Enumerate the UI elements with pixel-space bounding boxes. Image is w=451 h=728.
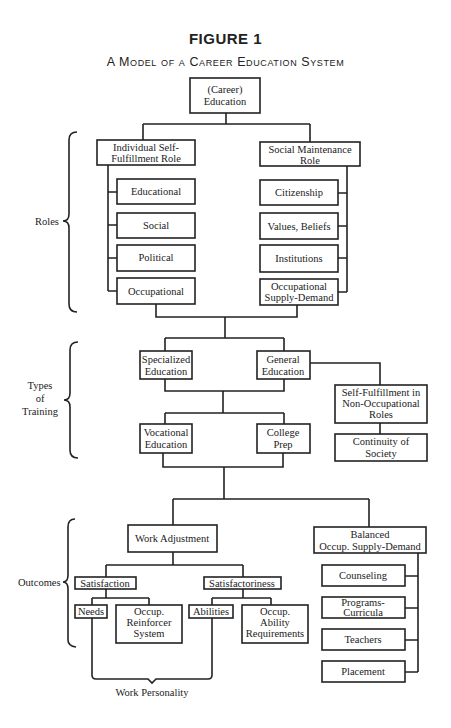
svg-text:Satisfactoriness: Satisfactoriness: [209, 578, 275, 589]
svg-text:Ability: Ability: [260, 617, 291, 628]
section-label-training-3: Training: [22, 406, 59, 417]
svg-text:Occup.: Occup.: [260, 606, 290, 617]
svg-text:Occupational: Occupational: [271, 281, 327, 292]
node-occupational-supply-demand: Occupational Supply-Demand: [260, 279, 338, 305]
svg-text:Education: Education: [145, 439, 188, 450]
node-citizenship: Citizenship: [260, 180, 338, 205]
svg-text:Education: Education: [145, 366, 188, 377]
svg-text:Values, Beliefs: Values, Beliefs: [268, 221, 331, 232]
node-general-education: General Education: [257, 351, 310, 379]
svg-text:Education: Education: [262, 366, 305, 377]
svg-text:Citizenship: Citizenship: [275, 187, 323, 198]
svg-text:Political: Political: [139, 252, 174, 263]
node-values-beliefs: Values, Beliefs: [260, 213, 338, 239]
svg-text:Education: Education: [204, 96, 247, 107]
node-placement: Placement: [322, 661, 405, 682]
svg-text:Vocational: Vocational: [144, 427, 189, 438]
svg-text:Social: Social: [143, 220, 169, 231]
svg-text:Abilities: Abilities: [193, 606, 229, 617]
svg-text:Continuity of: Continuity of: [353, 436, 410, 447]
svg-text:Satisfaction: Satisfaction: [80, 578, 130, 589]
node-occup-ability-requirements: Occup. Ability Requirements: [242, 605, 308, 643]
node-educational: Educational: [117, 179, 195, 204]
svg-text:Fulfillment Role: Fulfillment Role: [111, 153, 181, 164]
svg-text:Roles: Roles: [369, 409, 393, 420]
section-label-training-2: of: [36, 393, 45, 404]
training-brace: [64, 342, 78, 458]
node-teachers: Teachers: [322, 629, 405, 650]
svg-text:Curricula: Curricula: [343, 607, 383, 618]
node-occup-reinforcer-system: Occup. Reinforcer System: [116, 605, 182, 643]
node-political: Political: [117, 245, 195, 271]
node-specialized-education: Specialized Education: [140, 351, 192, 379]
node-individual-self-fulfillment-role: Individual Self- Fulfillment Role: [97, 140, 195, 165]
svg-text:Occup. Supply-Demand: Occup. Supply-Demand: [319, 541, 421, 552]
svg-text:Society: Society: [365, 448, 397, 459]
roles-brace: [63, 132, 77, 312]
node-career-education: (Career) Education: [190, 78, 260, 113]
node-social: Social: [117, 213, 195, 238]
svg-text:Non-Occupational: Non-Occupational: [342, 398, 420, 409]
node-continuity-of-society: Continuity of Society: [335, 434, 427, 461]
node-needs: Needs: [75, 605, 107, 618]
node-work-adjustment: Work Adjustment: [128, 525, 217, 552]
section-label-outcomes: Outcomes: [18, 577, 61, 588]
svg-text:Occupational: Occupational: [128, 286, 184, 297]
svg-text:Supply-Demand: Supply-Demand: [265, 292, 335, 303]
node-social-maintenance-role: Social Maintenance Role: [260, 142, 360, 166]
career-education-diagram: Roles Types of Training Outcomes (Career…: [0, 0, 451, 728]
node-college-prep: College Prep: [257, 424, 310, 453]
svg-text:Individual Self-: Individual Self-: [113, 142, 180, 153]
section-label-roles: Roles: [35, 216, 59, 227]
svg-text:Work Adjustment: Work Adjustment: [135, 533, 209, 544]
section-label-training-1: Types: [28, 380, 53, 391]
svg-text:Occup.: Occup.: [134, 606, 164, 617]
svg-text:Institutions: Institutions: [275, 253, 322, 264]
node-programs-curricula: Programs- Curricula: [322, 597, 405, 618]
node-satisfactoriness: Satisfactoriness: [204, 577, 281, 589]
svg-text:Educational: Educational: [131, 186, 181, 197]
svg-text:Balanced: Balanced: [350, 529, 390, 540]
outcomes-brace: [63, 519, 76, 647]
node-institutions: Institutions: [260, 245, 338, 272]
svg-text:General: General: [266, 354, 299, 365]
node-abilities: Abilities: [189, 605, 233, 618]
svg-text:Social Maintenance: Social Maintenance: [268, 144, 351, 155]
node-balanced-occup-supply-demand: Balanced Occup. Supply-Demand: [314, 527, 426, 553]
svg-text:Specialized: Specialized: [142, 354, 191, 365]
node-occupational: Occupational: [117, 278, 195, 304]
node-satisfaction: Satisfaction: [75, 577, 136, 589]
svg-text:Needs: Needs: [78, 606, 104, 617]
svg-text:Placement: Placement: [341, 666, 385, 677]
svg-text:Requirements: Requirements: [246, 628, 304, 639]
node-counseling: Counseling: [322, 565, 405, 586]
svg-text:Role: Role: [300, 155, 320, 166]
svg-text:College: College: [267, 427, 300, 438]
label-work-personality: Work Personality: [116, 687, 190, 698]
svg-text:Teachers: Teachers: [344, 634, 381, 645]
node-vocational-education: Vocational Education: [140, 424, 192, 453]
svg-text:System: System: [134, 628, 165, 639]
svg-text:Prep: Prep: [273, 439, 292, 450]
node-self-fulfillment-non-occupational: Self-Fulfillment in Non-Occupational Rol…: [335, 385, 427, 423]
svg-text:Reinforcer: Reinforcer: [127, 617, 172, 628]
svg-text:(Career): (Career): [208, 84, 243, 96]
svg-text:Self-Fulfillment in: Self-Fulfillment in: [342, 387, 421, 398]
svg-text:Counseling: Counseling: [339, 570, 388, 581]
